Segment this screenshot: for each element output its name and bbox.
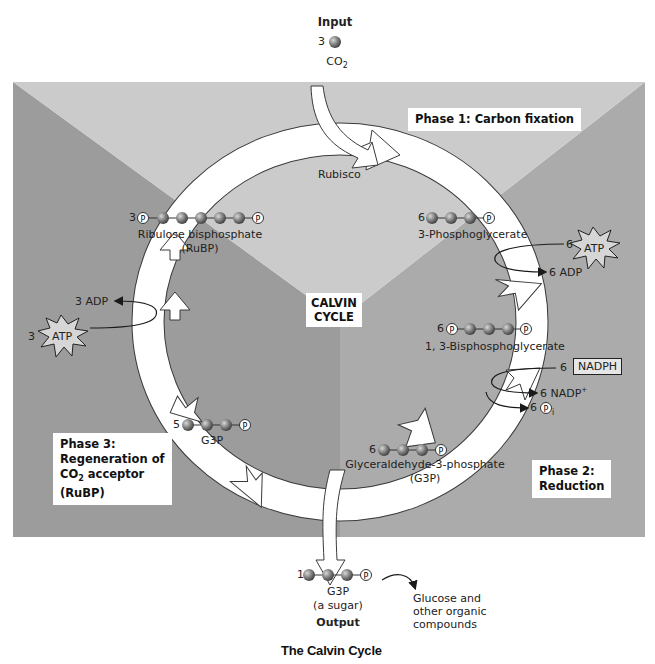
input-heading: Input — [318, 15, 352, 29]
pi-subscript: i — [552, 408, 554, 417]
svg-text:P: P — [364, 572, 369, 581]
g3p6-count: 6 — [369, 443, 376, 456]
bpg-count: 6 — [437, 322, 444, 335]
svg-text:P: P — [524, 326, 529, 335]
rubp-count: 3 — [129, 211, 136, 224]
svg-text:P: P — [243, 422, 248, 431]
svg-text:P: P — [544, 405, 549, 414]
output-name: G3P — [327, 585, 349, 598]
rubisco-label: Rubisco — [318, 168, 361, 181]
nadph-count: 6 — [560, 361, 567, 374]
nadph-box: NADPH — [573, 358, 622, 375]
calvin-cycle-diagram: P P P P P P — [0, 0, 655, 664]
g3p5-name: G3P — [201, 434, 223, 447]
svg-text:P: P — [141, 215, 146, 224]
output-count: 1 — [297, 568, 304, 581]
calvin-cycle-center-label: CALVIN CYCLE — [306, 293, 362, 327]
rubp-name: Ribulose bisphosphate — [138, 228, 262, 241]
nadp-label: 6 NADP+ — [540, 386, 587, 400]
atp-regen-label: ATP — [52, 330, 72, 343]
phase2-line1: Phase 2: — [539, 464, 604, 479]
g3p6-name: Glyceraldehyde-3-phosphate — [345, 458, 504, 471]
phase3-line2: Regeneration of — [60, 452, 165, 467]
svg-text:P: P — [487, 215, 492, 224]
co2-carbon-ball — [329, 36, 341, 48]
phase3-label: Phase 3: Regeneration of CO2 acceptor (R… — [53, 433, 172, 505]
pga-name: 3-Phosphoglycerate — [418, 228, 527, 241]
co2-subscript: 2 — [343, 61, 348, 70]
phase2-label: Phase 2: Reduction — [532, 460, 611, 498]
rubp-abbr: (RuBP) — [182, 242, 219, 255]
phase3-line3: CO2 acceptor — [60, 467, 165, 486]
g3p6-abbr: (G3P) — [410, 472, 441, 485]
phase3-line1: Phase 3: — [60, 437, 165, 452]
svg-text:P: P — [256, 215, 261, 224]
svg-text:P: P — [450, 326, 455, 335]
atp-reduction-label: ATP — [584, 242, 604, 255]
pga-count: 6 — [418, 211, 425, 224]
atp-regen-count: 3 — [28, 330, 35, 343]
output-products: Glucose and other organic compounds — [413, 592, 487, 631]
g3p5-count: 5 — [173, 418, 180, 431]
figure-title: The Calvin Cycle — [281, 643, 382, 658]
pi-count: 6 — [530, 401, 537, 414]
phase2-line2: Reduction — [539, 479, 604, 494]
co2-text: CO — [326, 55, 342, 68]
output-heading: Output — [316, 616, 359, 629]
adp-regen-label: 3 ADP — [75, 295, 108, 308]
bpg-name: 1, 3-Bisphosphoglycerate — [425, 340, 565, 353]
adp-reduction-label: 6 ADP — [549, 266, 582, 279]
phase1-label: Phase 1: Carbon fixation — [408, 108, 581, 131]
output-note: (a sugar) — [313, 599, 363, 612]
phase3-line4: (RuBP) — [60, 486, 165, 501]
atp-reduction-count: 6 — [566, 238, 573, 251]
inorganic-phosphate-symbol: P — [541, 403, 552, 415]
input-co2-count: 3 — [318, 35, 325, 48]
svg-text:P: P — [439, 447, 444, 456]
input-co2-label: CO2 — [326, 55, 347, 70]
